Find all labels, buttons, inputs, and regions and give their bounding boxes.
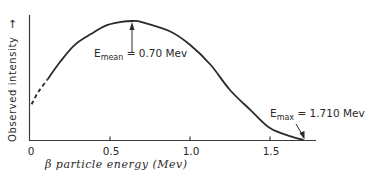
- max-label-value: = 1.710 Mev: [294, 107, 365, 119]
- max-label-sub: max: [277, 113, 294, 122]
- max-label-main: E: [270, 107, 277, 119]
- y-axis-label: Observed intensity →: [6, 19, 19, 142]
- mean-arrowhead-icon: [130, 22, 135, 30]
- x-axis-label-text: β particle energy (Mev): [45, 158, 188, 171]
- mean-label-value: = 0.70 Mev: [123, 47, 187, 59]
- x-tick-label-1-5: 1.5: [263, 145, 280, 157]
- mean-label-main: E: [94, 47, 101, 59]
- y-axis-arrow-icon: →: [6, 19, 19, 29]
- x-tick-label-0-5: 0.5: [103, 145, 120, 157]
- mean-label-sub: mean: [101, 53, 124, 62]
- x-tick-label-1-0: 1.0: [183, 145, 200, 157]
- x-tick-label-0: 0: [28, 145, 35, 157]
- y-axis-label-text: Observed intensity: [7, 37, 18, 142]
- extrapolated-curve: [32, 79, 48, 104]
- mean-energy-annotation: Emean = 0.70 Mev: [94, 47, 187, 62]
- max-energy-annotation: Emax = 1.710 Mev: [270, 107, 365, 122]
- x-axis-label: β particle energy (Mev): [45, 158, 188, 171]
- spectrum-curve: [48, 21, 304, 140]
